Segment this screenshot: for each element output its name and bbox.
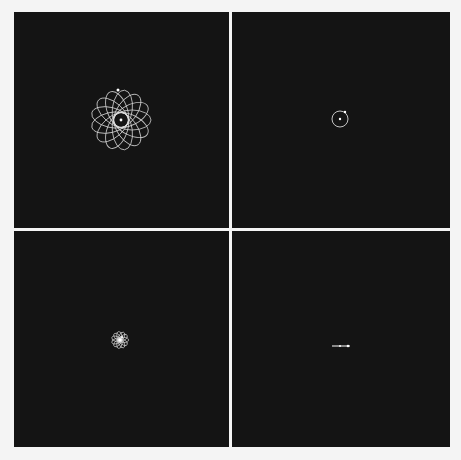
- panel-top-right: [232, 12, 450, 228]
- central-body: [339, 118, 341, 120]
- orbiting-body: [344, 111, 346, 113]
- panel-bottom-left: [14, 231, 229, 447]
- rosette-orbit-large: [14, 12, 229, 228]
- panel-bottom-right: [232, 231, 450, 447]
- orbiting-body: [347, 345, 350, 348]
- panel-top-left: [14, 12, 229, 228]
- circular-orbit: [232, 12, 450, 228]
- orbiting-body: [117, 89, 120, 92]
- central-body: [118, 338, 121, 341]
- central-body: [120, 119, 123, 122]
- central-body: [339, 345, 341, 347]
- rosette-orbit-small: [14, 231, 229, 447]
- linear-orbit: [232, 231, 450, 447]
- orbiting-body: [121, 336, 123, 338]
